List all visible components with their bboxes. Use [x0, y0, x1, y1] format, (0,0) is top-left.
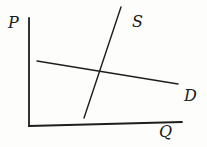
supply-line [84, 7, 121, 118]
y-axis-label: P [7, 13, 19, 32]
demand-line [37, 61, 178, 84]
chart-strokes [29, 7, 182, 126]
x-axis-label: Q [159, 122, 172, 141]
supply-demand-figure: P S D Q [0, 0, 207, 147]
chart-canvas: P S D Q [0, 0, 207, 147]
demand-line-label: D [183, 86, 197, 105]
supply-line-label: S [132, 12, 143, 31]
